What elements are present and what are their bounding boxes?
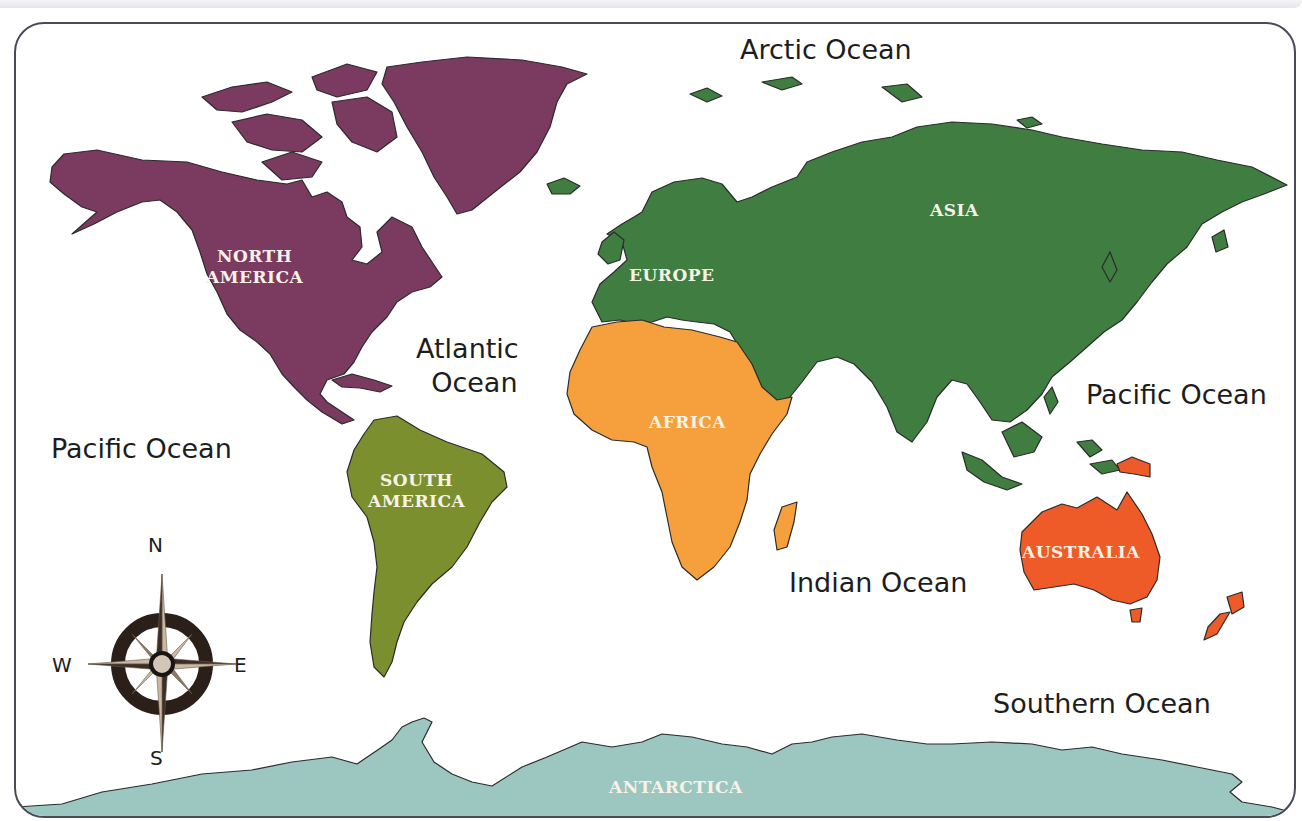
south-america-shape [347,416,507,677]
africa-label: AFRICA [649,412,726,433]
map-frame: N S E W Arctic Ocean Atlantic Ocean Paci… [14,22,1296,818]
atlantic-ocean-label: Atlantic Ocean [416,332,519,400]
south-america-label-line1: SOUTH [368,470,465,491]
australia-label: AUSTRALIA [1022,542,1140,563]
atlantic-ocean-line1: Atlantic [416,332,519,366]
top-strip [0,0,1302,8]
compass-north-label: N [148,533,163,557]
compass-east-label: E [234,653,247,677]
europe-label: EUROPE [629,265,714,286]
compass-south-label: S [150,746,163,770]
north-america-label: NORTH AMERICA [206,246,303,288]
atlantic-ocean-line2: Ocean [430,366,519,400]
asia-label: ASIA [930,200,979,221]
arctic-ocean-label: Arctic Ocean [740,33,912,67]
antarctica-label: ANTARCTICA [609,777,743,798]
south-america-label: SOUTH AMERICA [368,470,465,512]
north-america-label-line2: AMERICA [206,267,303,288]
compass-rose-icon [88,566,236,756]
pacific-ocean-west-label: Pacific Ocean [51,432,232,466]
indian-ocean-label: Indian Ocean [789,566,967,600]
compass-west-label: W [52,653,72,677]
southern-ocean-label: Southern Ocean [993,687,1211,721]
pacific-ocean-east-label: Pacific Ocean [1086,378,1267,412]
north-america-label-line1: NORTH [206,246,303,267]
south-america-label-line2: AMERICA [368,491,465,512]
